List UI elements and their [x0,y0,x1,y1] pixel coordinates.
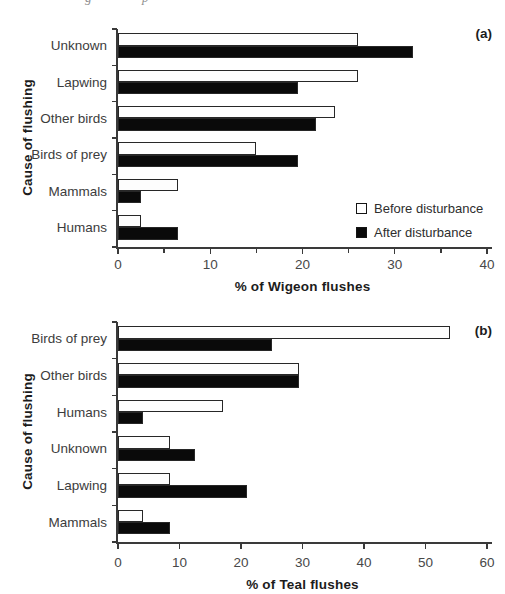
x-tick-label: 30 [295,555,310,570]
bar-after-mammals [118,522,170,534]
x-tick-label: 40 [356,555,371,570]
category-label-lapwing: Lapwing [0,478,107,493]
x-tick-label: 60 [479,555,494,570]
y-tick [112,358,117,359]
category-label-humans: Humans [0,405,107,420]
figure-two-panel-bar-chart: g p (a) Cause of flushing % of Wigeon fl… [0,0,505,594]
x-tick-label: 10 [172,555,187,570]
x-axis [116,542,492,544]
bar-after-birds-of-prey [118,339,272,351]
category-label-mammals: Mammals [0,515,107,530]
bar-before-mammals [118,510,143,522]
bar-after-lapwing [118,485,247,497]
panel-label-b: (b) [475,323,492,338]
y-axis-title-b: Cause of flushing [20,322,35,542]
bar-after-humans [118,412,143,424]
x-tick-major [117,544,118,549]
x-tick-major [363,544,364,549]
x-tick-label: 20 [233,555,248,570]
x-tick-major [486,544,487,549]
bar-before-humans [118,400,223,412]
x-tick-major [240,544,241,549]
x-tick-label: 0 [114,555,122,570]
bar-before-lapwing [118,473,170,485]
bar-before-other-birds [118,363,299,375]
y-tick [112,468,117,469]
y-tick [112,505,117,506]
bar-after-other-birds [118,375,299,387]
x-axis-title-b: % of Teal flushes [118,577,487,592]
chart-panel-b: (b) Cause of flushing % of Teal flushes … [0,0,505,594]
bar-after-unknown [118,449,195,461]
y-tick [112,541,117,542]
x-tick-major [302,544,303,549]
bar-before-birds-of-prey [118,326,450,338]
category-label-birds-of-prey: Birds of prey [0,331,107,346]
category-label-unknown: Unknown [0,441,107,456]
category-label-other-birds: Other birds [0,368,107,383]
x-tick-major [425,544,426,549]
y-tick [112,431,117,432]
bar-before-unknown [118,436,170,448]
x-tick-label: 50 [418,555,433,570]
y-tick [112,395,117,396]
y-tick [112,321,117,322]
x-tick-major [179,544,180,549]
